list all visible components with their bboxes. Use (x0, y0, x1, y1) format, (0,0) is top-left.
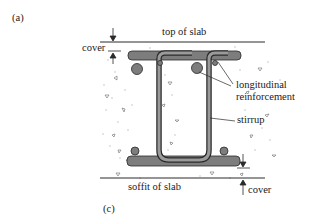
panel-label-c: (c) (103, 204, 115, 215)
cover-dimension-top (108, 28, 121, 64)
cover-bottom-label: cover (248, 185, 271, 196)
stirrup-label: stirrup (237, 115, 264, 126)
panel-label-a: (a) (12, 13, 24, 24)
stirrup-inner (159, 59, 209, 160)
soffit-of-slab-label: soffit of slab (128, 182, 181, 193)
longitudinal-bars (131, 61, 228, 156)
leader-lines (199, 62, 235, 121)
cover-top-label: cover (82, 43, 105, 54)
longitudinal-label: longitudinal (236, 80, 287, 91)
stirrup (159, 59, 209, 160)
top-of-slab-label: top of slab (162, 27, 206, 38)
reinforcement-label: reinforcement (236, 92, 295, 103)
